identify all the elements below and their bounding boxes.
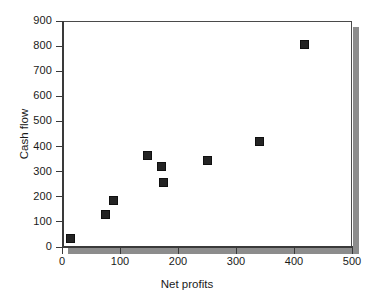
y-axis-tick-label: 0 — [8, 241, 52, 252]
y-axis-tick-label: 900 — [8, 15, 52, 26]
y-axis-tick — [56, 171, 62, 172]
x-axis-tick-label: 100 — [100, 256, 140, 267]
plot-frame-shadow-bottom — [68, 248, 359, 254]
x-axis-line — [62, 246, 353, 248]
scatter-chart-figure: 0100200300400500600700800900010020030040… — [0, 0, 374, 298]
y-axis-tick — [56, 46, 62, 47]
x-axis-tick-label: 500 — [332, 256, 372, 267]
y-axis-tick-label: 500 — [8, 115, 52, 126]
x-axis-tick — [120, 248, 121, 254]
y-axis-tick — [56, 96, 62, 97]
data-point-marker — [109, 196, 118, 205]
x-axis-tick-label: 0 — [42, 256, 82, 267]
data-point-marker — [143, 151, 152, 160]
data-point-marker — [66, 234, 75, 243]
data-point-marker — [255, 137, 264, 146]
y-axis-tick — [56, 71, 62, 72]
data-point-marker — [159, 178, 168, 187]
y-axis-tick-label: 100 — [8, 216, 52, 227]
y-axis-tick — [56, 221, 62, 222]
y-axis-tick-label: 300 — [8, 166, 52, 177]
y-axis-title: Cash flow — [18, 59, 30, 209]
data-point-marker — [203, 156, 212, 165]
x-axis-tick — [62, 248, 63, 254]
y-axis-tick-label: 400 — [8, 141, 52, 152]
x-axis-title: Net profits — [0, 278, 374, 290]
data-point-marker — [157, 162, 166, 171]
y-axis-line — [62, 21, 64, 248]
y-axis-tick — [56, 121, 62, 122]
y-axis-tick-label: 700 — [8, 65, 52, 76]
x-axis-tick — [352, 248, 353, 254]
data-point-marker — [300, 40, 309, 49]
x-axis-tick — [178, 248, 179, 254]
x-axis-tick — [236, 248, 237, 254]
data-point-marker — [101, 210, 110, 219]
y-axis-tick — [56, 146, 62, 147]
y-axis-tick — [56, 196, 62, 197]
x-axis-tick-label: 400 — [274, 256, 314, 267]
y-axis-tick — [56, 21, 62, 22]
x-axis-tick-label: 200 — [158, 256, 198, 267]
y-axis-tick-label: 200 — [8, 191, 52, 202]
y-axis-tick-label: 800 — [8, 40, 52, 51]
x-axis-tick-label: 300 — [216, 256, 256, 267]
plot-frame-shadow-right — [353, 27, 359, 253]
y-axis-tick-label: 600 — [8, 90, 52, 101]
x-axis-tick — [294, 248, 295, 254]
